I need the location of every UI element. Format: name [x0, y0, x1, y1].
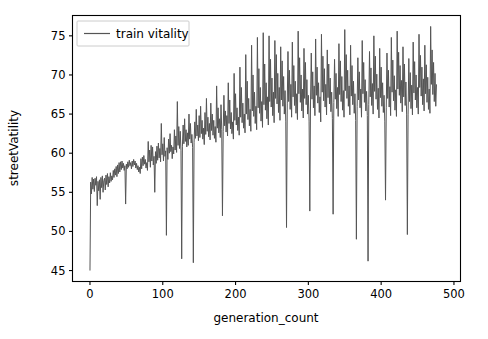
y-tick-label: 60 — [51, 146, 66, 160]
x-tick-label: 200 — [225, 287, 247, 301]
y-tick-label: 50 — [51, 224, 66, 238]
x-axis-label: generation_count — [213, 311, 318, 325]
plot-canvas: 0100200300400500 45505560657075 generati… — [0, 0, 488, 339]
y-axis-label: streetVatility — [7, 110, 21, 186]
x-tick-label: 300 — [297, 287, 319, 301]
y-tick-label: 75 — [51, 29, 66, 43]
y-tick-label: 65 — [51, 107, 66, 121]
y-tick-label: 55 — [51, 185, 66, 199]
chart-figure: 0100200300400500 45505560657075 generati… — [0, 0, 488, 339]
x-tick-label: 0 — [86, 287, 93, 301]
y-tick-label: 45 — [51, 264, 66, 278]
x-tick-label: 100 — [152, 287, 174, 301]
legend-label-train-vitality: train vitality — [116, 27, 189, 41]
chart-legend[interactable]: train vitality — [77, 21, 189, 46]
x-tick-label: 400 — [370, 287, 392, 301]
y-tick-label: 70 — [51, 68, 66, 82]
x-tick-label: 500 — [443, 287, 465, 301]
